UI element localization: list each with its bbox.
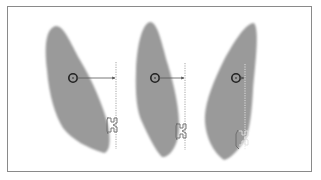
center-dot-icon — [154, 77, 156, 79]
tooth-2-silhouette — [136, 22, 179, 157]
tooth-3 — [205, 23, 257, 160]
tooth-2 — [136, 22, 186, 157]
center-dot-icon — [72, 77, 74, 79]
tooth-3-silhouette — [205, 23, 257, 160]
tooth-1 — [46, 26, 117, 153]
teeth-diagram — [0, 0, 321, 180]
center-dot-icon — [235, 77, 237, 79]
tooth-1-silhouette — [46, 26, 110, 153]
